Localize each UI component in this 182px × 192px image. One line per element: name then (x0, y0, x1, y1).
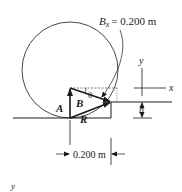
vector-b-label: B (75, 97, 83, 109)
vector-a-label: A (55, 102, 63, 114)
height-label: h (139, 104, 144, 115)
width-dimension-label: 0.200 m (73, 149, 106, 160)
theta-label: θ (88, 90, 92, 100)
theta-arc (85, 88, 86, 93)
vector-r-label: R (79, 113, 87, 125)
wheel-step-diagram: Bx= 0.200 m A B R θ y x h 0.200 m y (0, 0, 182, 192)
bx-leader-line (102, 30, 123, 97)
footer-y-label: y (10, 181, 15, 191)
axis-y-label: y (138, 55, 144, 66)
bx-label: Bx= 0.200 m (99, 15, 157, 29)
axis-x-label: x (168, 82, 174, 93)
